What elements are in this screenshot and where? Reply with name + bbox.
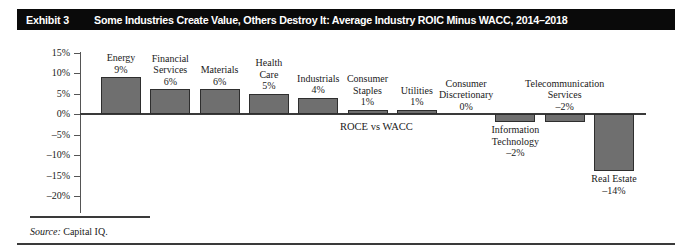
y-axis-tick-label: 5%: [0, 88, 70, 100]
bar-label-value: –2%: [515, 101, 615, 113]
source-note: Source: Capital IQ.: [30, 226, 108, 237]
bar-label-name: Services: [515, 89, 615, 101]
y-axis-tick: [74, 94, 80, 95]
source-rule-bottom: [17, 243, 675, 245]
y-axis-tick-label: –15%: [0, 170, 70, 182]
bar-label-name: Health: [219, 57, 319, 69]
y-axis-tick: [74, 135, 80, 136]
exhibit-number: Exhibit 3: [26, 14, 69, 26]
chart-bar: [545, 114, 585, 122]
bar-label: Real Estate–14%: [564, 173, 664, 196]
chart-container: 15%10%5%0%–5%–10%–15%–20%Energy9%Financi…: [0, 36, 692, 206]
bar-label-name: Financial: [120, 53, 220, 65]
y-axis-tick-label-text: 0%: [0, 108, 70, 119]
y-axis-tick-label-text: –10%: [0, 149, 70, 160]
y-axis-tick-label-text: 10%: [0, 67, 70, 78]
bar-label: ConsumerDiscretionary0%: [416, 78, 516, 113]
bar-label: TelecommunicationServices–2%: [515, 78, 615, 113]
y-axis-tick-label: –5%: [0, 129, 70, 141]
bar-label-name: Telecommunication: [515, 78, 615, 90]
y-axis-tick: [74, 114, 80, 115]
bar-label-name: Real Estate: [564, 173, 664, 185]
y-axis-tick-label-text: 5%: [0, 88, 70, 99]
source-value: Capital IQ.: [61, 226, 108, 237]
chart-bar: [594, 114, 634, 171]
chart-bar: [495, 114, 535, 122]
y-axis-tick: [74, 155, 80, 156]
y-axis-tick-label: 10%: [0, 67, 70, 79]
chart-bar: [348, 110, 388, 114]
bar-label-name: Consumer: [416, 78, 516, 90]
bar-label-value: 0%: [416, 101, 516, 113]
bar-label: InformationTechnology–2%: [465, 124, 565, 159]
y-axis-tick-label: –10%: [0, 149, 70, 161]
y-axis-tick-label-text: 15%: [0, 47, 70, 58]
y-axis-tick-label-text: –15%: [0, 170, 70, 181]
source-rule-top: [30, 216, 150, 218]
chart-bar: [249, 94, 289, 115]
y-axis-tick-label-text: –5%: [0, 129, 70, 140]
y-axis-tick: [74, 176, 80, 177]
roce-vs-wacc-annotation: ROCE vs WACC: [340, 121, 413, 132]
exhibit-header-bar: Exhibit 3 Some Industries Create Value, …: [17, 9, 675, 30]
y-axis-tick-label: 0%: [0, 108, 70, 120]
y-axis-tick: [74, 196, 80, 197]
exhibit-title: Some Industries Create Value, Others Des…: [94, 14, 568, 26]
source-prefix: Source:: [30, 226, 61, 237]
chart-bar: [150, 89, 190, 114]
bar-label-value: –14%: [564, 185, 664, 197]
y-axis-tick-label-text: –20%: [0, 190, 70, 201]
chart-bar: [200, 89, 240, 114]
bar-label-name: Consumer: [318, 73, 418, 85]
y-axis-tick-label: –20%: [0, 190, 70, 202]
bar-label-name: Information: [465, 124, 565, 136]
y-axis-tick-label: 15%: [0, 47, 70, 59]
bar-label-name: Discretionary: [416, 89, 516, 101]
bar-label-name: Technology: [465, 136, 565, 148]
bar-label-value: –2%: [465, 147, 565, 159]
